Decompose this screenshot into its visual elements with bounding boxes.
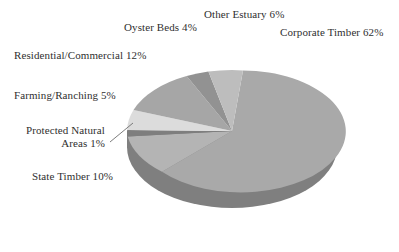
pie-label-oyster-beds: Oyster Beds 4% [124,21,197,34]
pie-label-state-timber: State Timber 10% [32,170,113,183]
pie-chart-figure: Other Estuary 6% Corporate Timber 62% Oy… [0,0,399,252]
pie-label-protected-natural-areas: Protected Natural Areas 1% [9,124,105,150]
pie-label-protected-natural-areas-line2: Areas 1% [61,137,105,149]
pie-label-other-estuary: Other Estuary 6% [204,8,284,21]
pie-label-protected-natural-areas-line1: Protected Natural [26,124,105,136]
pie-label-farming-ranching: Farming/Ranching 5% [14,89,116,102]
pie-label-corporate-timber: Corporate Timber 62% [280,26,383,39]
pie-label-residential-commercial: Residential/Commercial 12% [14,49,146,62]
